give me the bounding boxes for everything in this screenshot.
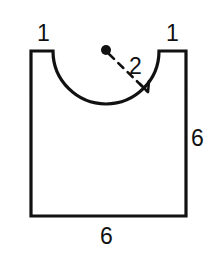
dimension-label-top-right: 1 [166,22,179,45]
figure-canvas: 1 1 2 6 6 [0,0,223,255]
dimension-label-bottom-side: 6 [100,225,113,248]
notched-square-outline [31,51,186,216]
geometry-figure-svg [0,0,223,255]
dimension-label-right-side: 6 [191,127,204,150]
dimension-label-top-left: 1 [37,22,50,45]
circle-center-dot [101,45,111,55]
dimension-label-radius: 2 [129,55,142,78]
